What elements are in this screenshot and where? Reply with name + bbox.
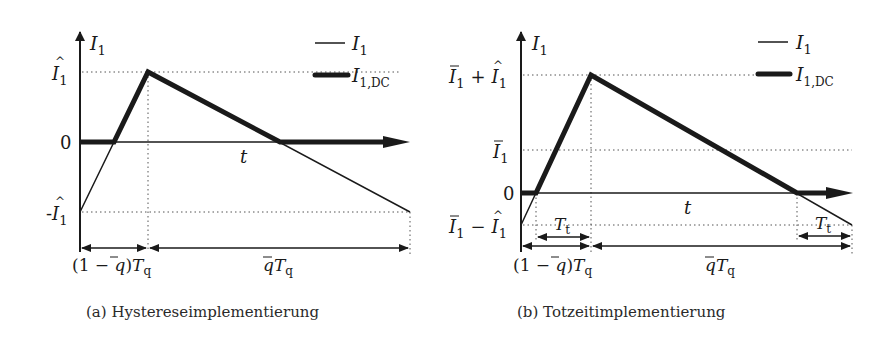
x-axis-label: t bbox=[684, 197, 692, 218]
x-axis-arrow-icon bbox=[826, 187, 853, 199]
i1dc-signal-line bbox=[521, 75, 826, 193]
hat-accent: ^ bbox=[55, 195, 65, 209]
panel-b: I1 I1 I1,DC I1+I1 ^ I1 0 I1−I1 ^ t Tt Tt… bbox=[448, 31, 853, 278]
y-tick-zero: 0 bbox=[503, 183, 514, 204]
panel-a: I1 I1 I1,DC I1 ^ 0 -I1 ^ t (1 − q)Tq qTq bbox=[46, 32, 410, 278]
i1dc-signal-line bbox=[80, 72, 383, 142]
legend-thick-label: I1,DC bbox=[351, 64, 390, 90]
y-tick-mean: I1 bbox=[492, 141, 508, 166]
caption-panel-a: (a) Hystereseimplementierung bbox=[86, 303, 319, 321]
x-axis-label: t bbox=[240, 146, 248, 167]
hat-accent: ^ bbox=[55, 55, 65, 69]
legend-thin-label: I1 bbox=[795, 31, 812, 57]
y-tick-zero: 0 bbox=[60, 132, 71, 153]
x-axis-arrow-icon bbox=[383, 136, 410, 148]
dim-label-off-time: qTq bbox=[263, 255, 293, 278]
hat-accent: ^ bbox=[493, 209, 503, 223]
diagram-canvas: I1 I1 I1,DC I1 ^ 0 -I1 ^ t (1 − q)Tq qTq bbox=[0, 0, 895, 346]
dim-label-on-time: (1 − q)Tq bbox=[72, 255, 151, 278]
dim-label-deadtime-2: Tt bbox=[815, 213, 831, 236]
dim-label-on-time: (1 − q)Tq bbox=[513, 255, 592, 278]
caption-panel-b: (b) Totzeitimplementierung bbox=[517, 303, 725, 321]
y-axis-label: I1 bbox=[531, 32, 548, 58]
dim-label-off-time: qTq bbox=[705, 255, 735, 278]
y-axis-label: I1 bbox=[89, 32, 106, 58]
legend-thin-label: I1 bbox=[351, 32, 368, 58]
hat-accent: ^ bbox=[493, 59, 503, 73]
legend-thick-label: I1,DC bbox=[795, 63, 834, 89]
dim-label-deadtime-1: Tt bbox=[554, 214, 570, 237]
guide-lines bbox=[523, 75, 852, 256]
